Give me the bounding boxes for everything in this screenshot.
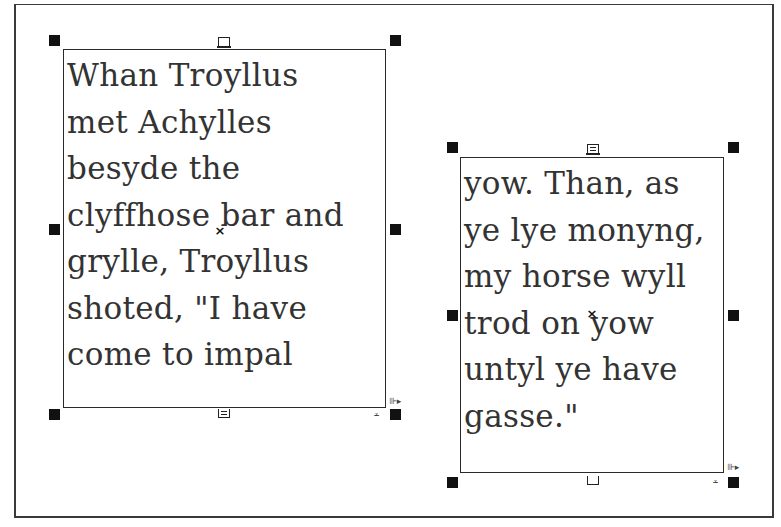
resize-handle-bottom-left[interactable] (49, 409, 60, 420)
text-frame-1-content[interactable]: Whan Troyllusmet Achyllesbesyde theclyff… (67, 52, 385, 378)
resize-handle-top-left[interactable] (447, 142, 458, 153)
text-frame-2-content[interactable]: yow. Than, asye lye monyng,my horse wyll… (464, 160, 723, 439)
column-indicator-icon: ⊪▸ (389, 397, 401, 406)
in-port-threaded-icon[interactable] (587, 144, 599, 153)
text-line: my horse wyll (464, 253, 723, 300)
resize-handle-middle-right[interactable] (728, 310, 739, 321)
text-line: Whan Troyllus (67, 52, 385, 99)
text-line: ye lye monyng, (464, 207, 723, 254)
text-line: met Achylles (67, 99, 385, 146)
in-port-base (586, 153, 600, 155)
resize-handle-bottom-right[interactable] (728, 477, 739, 488)
text-line: yow. Than, as (464, 160, 723, 207)
resize-handle-bottom-right[interactable] (390, 409, 401, 420)
resize-handle-top-left[interactable] (49, 35, 60, 46)
center-point-icon: × (214, 224, 226, 237)
in-port-empty-icon[interactable] (218, 37, 230, 46)
text-line: come to impal (67, 331, 385, 378)
column-indicator-icon: ⊪▸ (727, 463, 739, 472)
resize-handle-middle-left[interactable] (49, 224, 60, 235)
text-line: besyde the (67, 145, 385, 192)
resize-handle-bottom-left[interactable] (447, 477, 458, 488)
text-line: grylle, Troyllus (67, 238, 385, 285)
text-line: clyffhose bar and (67, 192, 385, 239)
overset-indicator-icon: ⩡ (374, 411, 379, 420)
text-line: untyl ye have (464, 346, 723, 393)
resize-handle-top-right[interactable] (390, 35, 401, 46)
out-port-empty-icon[interactable] (587, 476, 599, 485)
text-line: shoted, "I have (67, 285, 385, 332)
text-line: gasse." (464, 393, 723, 440)
center-point-icon: × (586, 307, 598, 320)
overset-indicator-icon: ⩡ (713, 478, 718, 487)
in-port-base (217, 46, 231, 48)
resize-handle-middle-left[interactable] (447, 310, 458, 321)
resize-handle-middle-right[interactable] (390, 224, 401, 235)
out-port-threaded-icon[interactable] (218, 409, 230, 418)
resize-handle-top-right[interactable] (728, 142, 739, 153)
